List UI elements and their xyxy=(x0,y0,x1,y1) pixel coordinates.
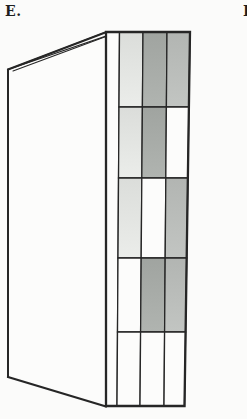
grid-cell-r3-c3 xyxy=(165,178,188,258)
grid-cell-r4-c1 xyxy=(117,258,141,332)
grid-cell-r2-c1 xyxy=(119,107,143,178)
shaded-box-figure xyxy=(0,0,247,419)
grid-cell-r4-c3 xyxy=(165,258,187,332)
grid-cell-r1-c1 xyxy=(119,32,143,107)
grid-cell-r2-c2 xyxy=(142,107,167,178)
slab-front-face xyxy=(8,36,106,406)
grid-cell-r4-c2 xyxy=(141,258,166,332)
grid-cell-r5-c3 xyxy=(164,332,186,406)
grid-cell-r1-c2 xyxy=(142,32,167,107)
grid-cell-r1-c3 xyxy=(166,32,190,107)
grid-cell-r5-c1 xyxy=(117,332,141,406)
grid-cell-r5-c2 xyxy=(140,332,165,406)
grid-cell-r3-c1 xyxy=(118,178,142,258)
grid-cell-r2-c3 xyxy=(166,107,189,178)
grid-cell-r3-c2 xyxy=(141,178,166,258)
test-item-panel: E. F xyxy=(0,0,247,419)
